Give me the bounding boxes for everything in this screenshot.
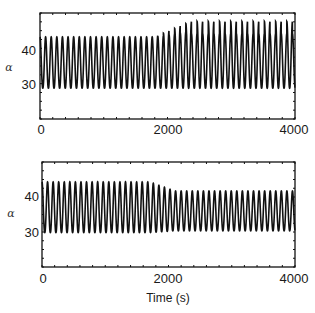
top-xtick-0: 0 [37,122,44,137]
bottom-xtick-4000: 4000 [280,271,309,286]
bottom-xtick-0: 0 [39,271,46,286]
bottom-ylabel: α [7,207,15,220]
bottom-panel: 40 30 α 0 2000 4000 Time (s) [7,162,308,305]
bottom-ytick-40: 40 [25,189,39,204]
top-ytick-40: 40 [22,43,36,58]
top-alpha-line [40,22,295,89]
bottom-alpha-line [42,182,295,233]
top-ylabel: α [5,61,13,74]
bottom-xtick-2000: 2000 [154,271,183,286]
bottom-ytick-30: 30 [25,225,39,240]
bottom-xlabel: Time (s) [146,291,190,305]
figure: 40 30 α 0 2000 4000 40 30 α 0 2000 4000 … [0,0,315,313]
top-xtick-2000: 2000 [154,122,183,137]
top-panel: 40 30 α 0 2000 4000 [5,13,308,137]
top-xtick-4000: 4000 [280,122,309,137]
top-ytick-30: 30 [22,77,36,92]
